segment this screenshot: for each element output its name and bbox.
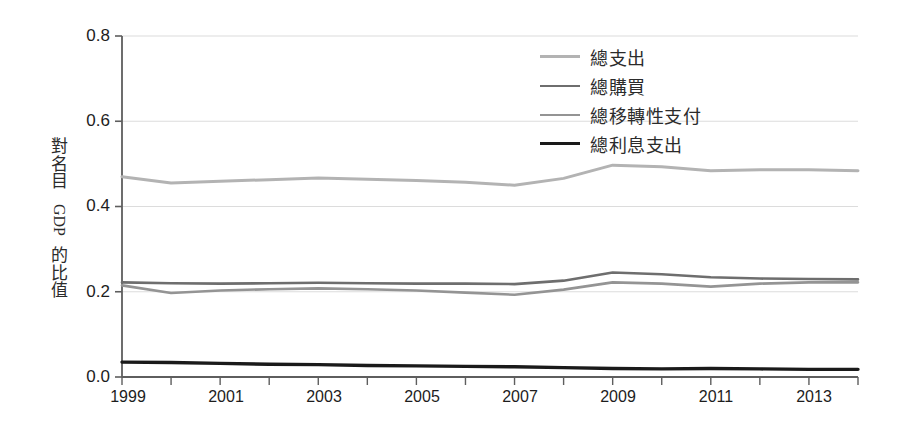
legend-label-0: 總支出 xyxy=(590,44,646,70)
series-line-3 xyxy=(122,362,858,369)
legend-swatch-3 xyxy=(540,142,580,145)
series-lines xyxy=(122,165,858,369)
legend-item-2: 總移轉性支付 xyxy=(540,100,770,129)
legend-swatch-0 xyxy=(540,55,580,58)
legend-item-1: 總購買 xyxy=(540,71,770,100)
legend-swatch-1 xyxy=(540,85,580,87)
legend-swatch-2 xyxy=(540,114,580,116)
legend-label-2: 總移轉性支付 xyxy=(590,102,701,128)
legend-label-1: 總購買 xyxy=(590,73,646,99)
chart-legend: 總支出 總購買 總移轉性支付 總利息支出 xyxy=(540,42,770,158)
legend-item-0: 總支出 xyxy=(540,42,770,71)
chart-figure: 對 名 目 GDP 的 比 值 0.8 0.6 0.4 0.2 0.0 1999… xyxy=(0,0,904,433)
series-line-1 xyxy=(122,273,858,285)
legend-label-3: 總利息支出 xyxy=(590,131,683,157)
series-line-0 xyxy=(122,165,858,185)
legend-item-3: 總利息支出 xyxy=(540,129,770,158)
